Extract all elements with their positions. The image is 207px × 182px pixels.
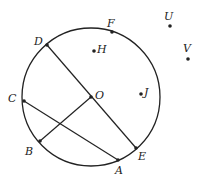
label-U: U [164,10,174,23]
label-V: V [183,42,192,55]
point-J [139,92,143,96]
label-F: F [106,17,115,30]
point-U [168,24,172,28]
point-B [38,139,42,143]
label-C: C [8,92,17,105]
point-H [92,49,96,53]
label-H: H [96,43,107,56]
label-J: J [142,86,149,99]
label-D: D [33,35,43,48]
label-O: O [95,89,104,102]
segment-BO [40,97,91,141]
point-C [22,99,26,103]
point-F [110,30,114,34]
label-B: B [24,145,33,158]
points: DFHOJCBEAUV [8,10,192,177]
geometry-diagram: DFHOJCBEAUV [0,0,207,182]
segment-CA [24,101,118,160]
label-E: E [137,150,146,163]
point-A [116,158,120,162]
segments [24,45,136,160]
point-D [45,43,49,47]
point-O [89,95,93,99]
point-V [186,57,190,61]
label-A: A [114,164,123,177]
